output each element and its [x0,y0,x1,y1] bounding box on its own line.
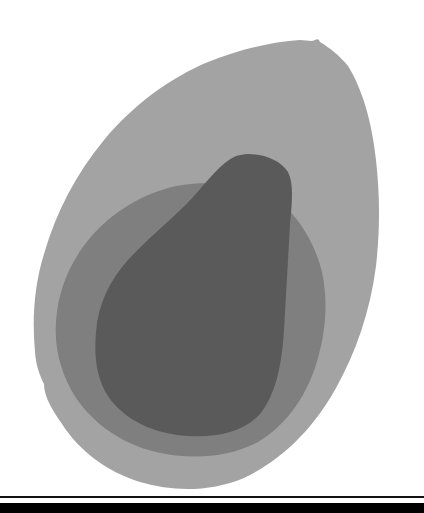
thin-horizontal-rule [0,496,424,498]
contour-figure [0,0,424,513]
contour-plot [0,0,424,513]
thick-horizontal-rule [0,503,424,513]
